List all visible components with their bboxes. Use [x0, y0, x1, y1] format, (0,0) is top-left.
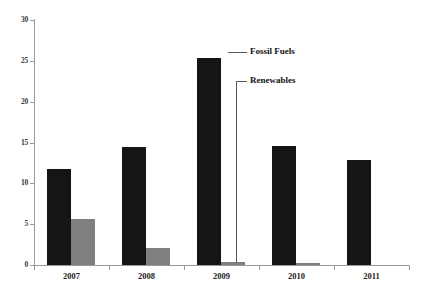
renewables-annotation-label: Renewables: [250, 76, 296, 85]
y-tick-label-25-text: 25: [6, 57, 28, 65]
bar-fossil-2007: [47, 169, 71, 265]
y-tick-label-0-text: 0: [6, 261, 28, 269]
bar-fossil-2008: [122, 147, 146, 265]
bar-fossil-2010: [272, 146, 296, 265]
x-tick-label-2009: 2009: [192, 272, 252, 281]
x-tick-end: [409, 265, 410, 270]
y-tick-label-30-text: 30: [6, 16, 28, 24]
bar-renewables-2010: [296, 263, 320, 265]
y-tick-label-20: 20: [0, 98, 28, 106]
y-tick-label-0: 0: [0, 261, 28, 269]
y-tick-label-5: 5: [0, 220, 28, 228]
x-tick-2: [184, 265, 185, 270]
x-tick-label-2010: 2010: [267, 272, 327, 281]
renewables-leader-line-horizontal: [236, 81, 247, 82]
x-tick-label-2011: 2011: [342, 272, 402, 281]
x-tick-1: [109, 265, 110, 270]
bar-fossil-2009: [197, 58, 221, 265]
y-tick-label-10: 10: [0, 179, 28, 187]
x-tick-label-2008: 2008: [117, 272, 177, 281]
bar-chart: 30 25 20 15 10 5 0 2007 2008 2009 2010 2…: [0, 0, 437, 302]
bar-renewables-2007: [71, 219, 95, 265]
y-tick-label-20-text: 20: [6, 98, 28, 106]
x-tick-start: [34, 265, 35, 270]
x-tick-label-2007: 2007: [42, 272, 102, 281]
renewables-leader-line-vertical: [236, 81, 237, 263]
fossil-fuels-annotation-label: Fossil Fuels: [250, 47, 295, 56]
y-tick-label-15-text: 15: [6, 139, 28, 147]
x-tick-4: [334, 265, 335, 270]
y-tick-label-30: 30: [0, 16, 28, 24]
bar-fossil-2011: [347, 160, 371, 265]
bar-renewables-2009: [221, 262, 245, 265]
bar-renewables-2008: [146, 248, 170, 265]
fossil-fuels-leader-line: [228, 52, 247, 53]
y-tick-label-5-text: 5: [6, 220, 28, 228]
y-tick-label-10-text: 10: [6, 179, 28, 187]
y-tick-label-25: 25: [0, 57, 28, 65]
x-axis-line: [34, 265, 409, 266]
y-tick-label-15: 15: [0, 139, 28, 147]
x-tick-3: [259, 265, 260, 270]
bars-layer: [35, 20, 405, 265]
